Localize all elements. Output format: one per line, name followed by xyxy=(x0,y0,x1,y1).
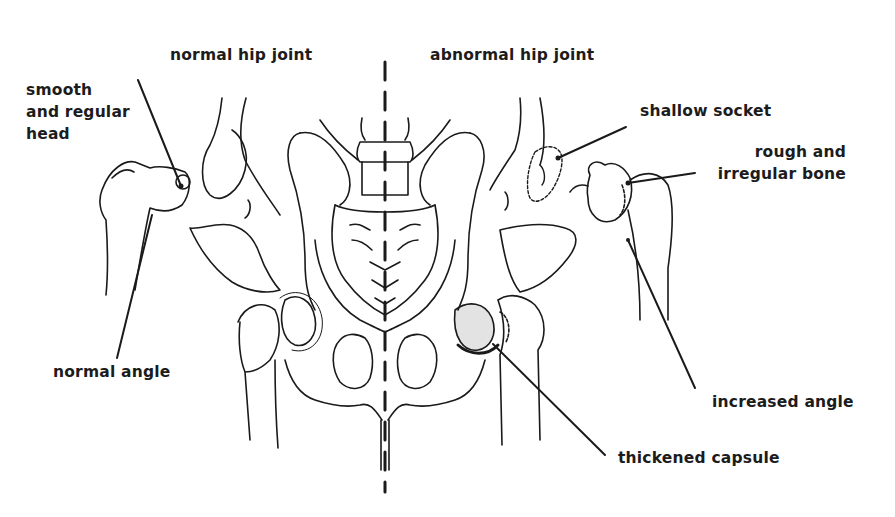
label-normal-angle: normal angle xyxy=(53,361,170,383)
left-detached-femur xyxy=(100,162,190,295)
label-increased-angle: increased angle xyxy=(712,391,854,413)
label-shallow-socket: shallow socket xyxy=(640,100,771,122)
heading-normal-hip-joint: normal hip joint xyxy=(170,44,312,66)
label-line: and regular xyxy=(26,101,130,123)
heading-abnormal-hip-joint: abnormal hip joint xyxy=(430,44,594,66)
leader-rough-bone xyxy=(628,173,695,183)
label-rough-irregular-bone: rough and irregular bone xyxy=(700,141,846,185)
leader-normal-angle xyxy=(117,215,152,358)
label-line: irregular bone xyxy=(700,163,846,185)
label-line: head xyxy=(26,123,130,145)
hip-joint-diagram: normal hip joint abnormal hip joint smoo… xyxy=(0,0,895,517)
leader-increased-angle xyxy=(628,240,695,388)
right-detached-femur xyxy=(570,162,672,320)
label-smooth-regular-head: smooth and regular head xyxy=(26,79,130,145)
leader-thickened-capsule xyxy=(493,344,605,455)
pelvis-illustration xyxy=(0,0,895,517)
left-hip-joint xyxy=(238,292,322,448)
leader-shallow-socket xyxy=(558,127,626,158)
label-line: rough and xyxy=(700,141,846,163)
leader-smooth-head xyxy=(138,80,181,186)
right-ilium xyxy=(490,98,576,292)
shallow-socket-outline xyxy=(528,147,562,202)
right-hip-joint xyxy=(455,296,544,445)
left-ilium xyxy=(190,98,280,292)
label-line: smooth xyxy=(26,79,130,101)
label-thickened-capsule: thickened capsule xyxy=(618,447,780,469)
